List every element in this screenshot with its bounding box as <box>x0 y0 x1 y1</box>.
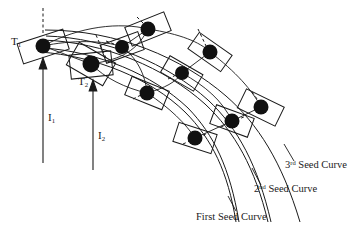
sample-dots-group <box>36 22 269 146</box>
seed-curve-1-inner <box>44 48 239 222</box>
sample-dot <box>254 100 269 115</box>
seed-curve-1-path <box>40 52 236 222</box>
label-t1: T1 <box>11 36 21 48</box>
sample-dot <box>115 40 129 54</box>
rail-g <box>148 29 210 52</box>
label-seed-curve-3: 3rd Seed Curve <box>285 160 347 171</box>
sample-dot-t1 <box>36 39 51 54</box>
figure-canvas: T1 T2 I1 I2 3rd Seed Curve 2nd Seed Curv… <box>0 0 361 232</box>
sample-dot-t2 <box>83 56 100 73</box>
label-seed-curve-2: 2nd Seed Curve <box>254 184 317 195</box>
sample-dot <box>225 114 240 129</box>
rail-k <box>182 73 232 121</box>
sample-dot <box>188 131 203 146</box>
label-i2: I2 <box>98 130 105 142</box>
label-t2: T2 <box>78 76 88 88</box>
leader-line-curve1 <box>228 196 236 211</box>
sample-dot <box>175 66 189 80</box>
sample-dot <box>140 86 155 101</box>
rail-l <box>210 52 261 107</box>
sample-dot <box>141 22 156 37</box>
label-i1: I1 <box>48 112 55 124</box>
sample-dot <box>203 45 218 60</box>
arrow-i1-head <box>39 58 47 69</box>
seed-curve-2-inner <box>46 36 271 222</box>
label-seed-curve-1: First Seed Curve <box>196 212 267 223</box>
